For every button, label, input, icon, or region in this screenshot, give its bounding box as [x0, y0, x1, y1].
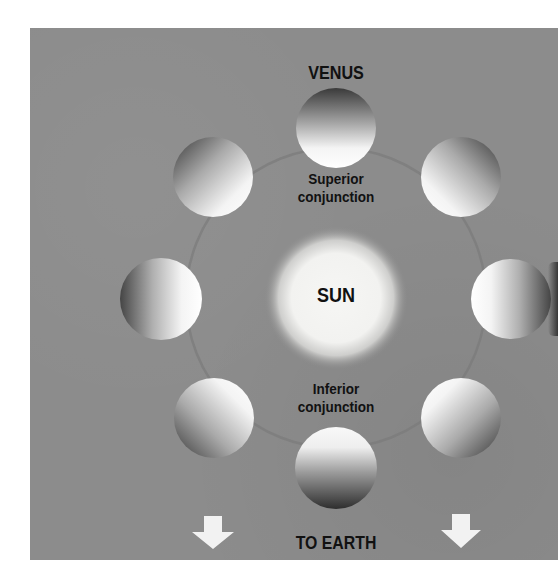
venus-title: VENUS — [294, 64, 379, 82]
venus-lower-left — [174, 378, 254, 458]
superior-conjunction-label: Superior conjunction — [273, 170, 399, 206]
superior-label-line1: Superior — [273, 170, 399, 188]
sun-label: SUN — [300, 286, 372, 304]
venus-upper-right — [421, 137, 501, 217]
inferior-label-line1: Inferior — [273, 380, 399, 398]
to-earth-label: TO EARTH — [283, 534, 389, 552]
arrow-down-icon — [192, 516, 234, 549]
venus-top — [296, 88, 376, 168]
venus-lower-right — [421, 378, 501, 458]
inferior-conjunction-label: Inferior conjunction — [273, 380, 399, 416]
venus-phases-diagram — [0, 0, 558, 580]
venus-right — [471, 259, 551, 339]
inferior-label-line2: conjunction — [273, 398, 399, 416]
venus-upper-left — [173, 137, 253, 217]
superior-label-line2: conjunction — [273, 188, 399, 206]
venus-left — [120, 258, 202, 340]
arrow-down-icon — [441, 514, 481, 548]
venus-bottom — [295, 427, 377, 509]
